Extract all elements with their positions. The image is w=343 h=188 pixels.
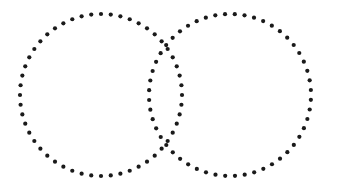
circle-dot [223, 12, 227, 16]
figure-canvas [0, 0, 343, 188]
circle-dot [179, 83, 183, 87]
circle-dot [252, 16, 256, 20]
circle-dot [309, 98, 313, 102]
circle-dot [261, 167, 265, 171]
circle-dot [151, 117, 155, 121]
circle-dot [171, 131, 175, 135]
venn-diagram-svg [0, 0, 343, 188]
circle-dot [70, 169, 74, 173]
circle-dot [23, 122, 27, 126]
circle-dot [53, 160, 57, 164]
circle-dot [195, 167, 199, 171]
circle-dot [175, 122, 179, 126]
circle-dot [305, 117, 309, 121]
circle-dot [308, 107, 312, 111]
circle-dot [178, 29, 182, 33]
circle-dot [233, 174, 237, 178]
circle-dot [89, 12, 93, 16]
circle-dot [278, 29, 282, 33]
circle-dot [118, 14, 122, 18]
circle-dot [89, 173, 93, 177]
circle-dot [109, 173, 113, 177]
circle-dot [242, 13, 246, 17]
circle-dot [159, 135, 163, 139]
circle-dot [137, 165, 141, 169]
circle-dot [38, 39, 42, 43]
circle-dot [61, 21, 65, 25]
circle-dot [297, 51, 301, 55]
circle-dot [53, 26, 57, 30]
circle-dot [80, 172, 84, 176]
circle-dot [147, 88, 151, 92]
circle-dot [45, 154, 49, 158]
circle-dot [292, 43, 296, 47]
circle-dot [213, 13, 217, 17]
circle-dot [278, 157, 282, 161]
circle-dot [18, 93, 22, 97]
circle-dot [160, 147, 164, 151]
circle-dot [178, 112, 182, 116]
circle-dot [80, 14, 84, 18]
circle-dot [309, 88, 313, 92]
circle-dot [171, 150, 175, 154]
circle-dot [32, 47, 36, 51]
circle-dot [166, 139, 170, 143]
circle-dot [305, 69, 309, 73]
circle-dot [175, 64, 179, 68]
circle-dot [178, 157, 182, 161]
circle-dot [20, 74, 24, 78]
circle-dot [261, 19, 265, 23]
circle-dot [204, 16, 208, 20]
circle-dot [302, 126, 306, 130]
circle-dot [145, 160, 149, 164]
circle-dot [38, 147, 42, 151]
circle-dot [154, 126, 158, 130]
circle-dot [285, 150, 289, 154]
circle-dot [145, 26, 149, 30]
circle-dot [186, 162, 190, 166]
circle-dot [20, 112, 24, 116]
circle-dot [243, 173, 247, 177]
circle-dot [160, 39, 164, 43]
circle-dot [166, 47, 170, 51]
circle-dot [302, 60, 306, 64]
circle-dot [99, 174, 103, 178]
circle-dot [186, 24, 190, 28]
circle-dot [23, 64, 27, 68]
circle-dot [18, 83, 22, 87]
circle-dot [27, 55, 31, 59]
circle-dot [213, 173, 217, 177]
circle-dot [252, 170, 256, 174]
circle-dot [148, 108, 152, 112]
circle-dot [61, 165, 65, 169]
circle-dot [164, 143, 168, 147]
circle-dot [164, 43, 168, 47]
circle-dot [179, 103, 183, 107]
circle-dot [128, 169, 132, 173]
circle-dot [223, 174, 227, 178]
circle-dot [27, 131, 31, 135]
circle-dot [233, 12, 237, 16]
circle-dot [148, 78, 152, 82]
circle-dot [153, 32, 157, 36]
circle-dot [18, 103, 22, 107]
circle-dot [118, 172, 122, 176]
circle-dot [171, 55, 175, 59]
circle-dot [109, 12, 113, 16]
circle-dot [99, 12, 103, 16]
circle-dot [147, 98, 151, 102]
circle-dot [128, 17, 132, 21]
circle-dot [178, 74, 182, 78]
circle-dot [151, 69, 155, 73]
circle-dot [195, 19, 199, 23]
circle-dot [154, 60, 158, 64]
circle-dot [171, 36, 175, 40]
circle-dot [292, 143, 296, 147]
circle-dot [180, 93, 184, 97]
circle-dot [270, 24, 274, 28]
circle-dot [204, 170, 208, 174]
circle-dot [70, 17, 74, 21]
canvas-background [0, 0, 343, 188]
circle-dot [153, 154, 157, 158]
circle-dot [285, 36, 289, 40]
